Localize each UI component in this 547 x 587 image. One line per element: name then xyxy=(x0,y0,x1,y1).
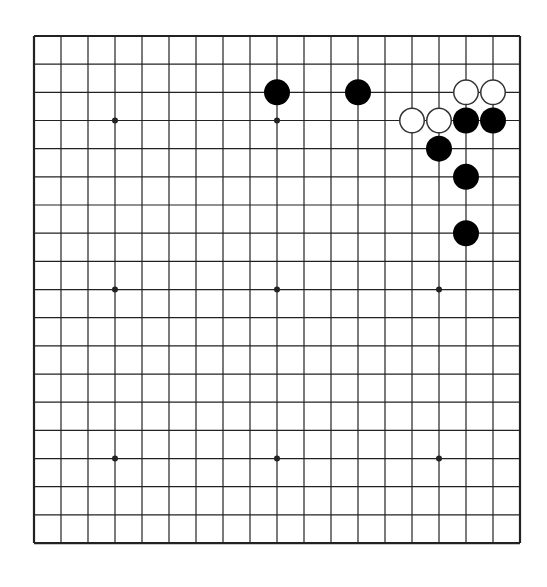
board-intersection[interactable] xyxy=(345,106,372,134)
board-intersection[interactable] xyxy=(291,501,318,529)
board-intersection[interactable] xyxy=(75,106,102,134)
board-intersection[interactable] xyxy=(453,416,480,444)
board-intersection[interactable] xyxy=(75,444,102,472)
board-intersection[interactable] xyxy=(264,501,291,529)
board-intersection[interactable] xyxy=(156,247,183,275)
board-intersection[interactable] xyxy=(21,529,48,557)
board-intersection[interactable] xyxy=(345,219,372,247)
board-intersection[interactable] xyxy=(345,247,372,275)
board-intersection[interactable] xyxy=(345,529,372,557)
board-intersection[interactable] xyxy=(21,50,48,78)
board-intersection[interactable] xyxy=(210,22,237,50)
board-intersection[interactable] xyxy=(507,444,534,472)
board-intersection[interactable] xyxy=(291,247,318,275)
board-intersection[interactable] xyxy=(399,163,426,191)
board-intersection[interactable] xyxy=(156,501,183,529)
board-intersection[interactable] xyxy=(21,135,48,163)
board-intersection[interactable] xyxy=(264,275,291,303)
board-intersection[interactable] xyxy=(426,275,453,303)
board-intersection[interactable] xyxy=(183,416,210,444)
board-intersection[interactable] xyxy=(264,332,291,360)
board-intersection[interactable] xyxy=(399,360,426,388)
board-intersection[interactable] xyxy=(318,22,345,50)
board-intersection[interactable] xyxy=(75,191,102,219)
board-intersection[interactable] xyxy=(102,388,129,416)
board-intersection[interactable] xyxy=(399,78,426,106)
board-intersection[interactable] xyxy=(48,473,75,501)
board-intersection[interactable] xyxy=(21,106,48,134)
board-intersection[interactable] xyxy=(183,191,210,219)
board-intersection[interactable] xyxy=(507,106,534,134)
board-intersection[interactable] xyxy=(237,135,264,163)
board-intersection[interactable] xyxy=(21,416,48,444)
board-intersection[interactable] xyxy=(210,191,237,219)
board-intersection[interactable] xyxy=(399,275,426,303)
board-intersection[interactable] xyxy=(372,135,399,163)
board-intersection[interactable] xyxy=(102,529,129,557)
board-intersection[interactable] xyxy=(345,275,372,303)
board-intersection[interactable] xyxy=(48,360,75,388)
go-board[interactable] xyxy=(0,0,547,587)
board-intersection[interactable] xyxy=(507,388,534,416)
board-intersection[interactable] xyxy=(156,275,183,303)
board-intersection[interactable] xyxy=(453,304,480,332)
board-intersection[interactable] xyxy=(48,191,75,219)
board-intersection[interactable] xyxy=(183,529,210,557)
board-intersection[interactable] xyxy=(129,501,156,529)
board-intersection[interactable] xyxy=(237,247,264,275)
board-intersection[interactable] xyxy=(237,163,264,191)
board-intersection[interactable] xyxy=(21,388,48,416)
board-intersection[interactable] xyxy=(480,219,507,247)
board-intersection[interactable] xyxy=(453,444,480,472)
board-intersection[interactable] xyxy=(210,50,237,78)
board-intersection[interactable] xyxy=(237,50,264,78)
board-intersection[interactable] xyxy=(372,22,399,50)
board-intersection[interactable] xyxy=(210,501,237,529)
board-intersection[interactable] xyxy=(480,163,507,191)
board-intersection[interactable] xyxy=(318,304,345,332)
board-intersection[interactable] xyxy=(48,501,75,529)
board-intersection[interactable] xyxy=(399,529,426,557)
board-intersection[interactable] xyxy=(156,416,183,444)
board-intersection[interactable] xyxy=(318,275,345,303)
board-intersection[interactable] xyxy=(21,78,48,106)
board-intersection[interactable] xyxy=(183,163,210,191)
board-intersection[interactable] xyxy=(264,163,291,191)
board-intersection[interactable] xyxy=(129,106,156,134)
board-intersection[interactable] xyxy=(426,332,453,360)
board-intersection[interactable] xyxy=(21,163,48,191)
board-intersection[interactable] xyxy=(480,360,507,388)
board-intersection[interactable] xyxy=(210,163,237,191)
board-intersection[interactable] xyxy=(210,135,237,163)
board-intersection[interactable] xyxy=(21,501,48,529)
board-intersection[interactable] xyxy=(480,332,507,360)
board-intersection[interactable] xyxy=(183,501,210,529)
board-intersection[interactable] xyxy=(75,135,102,163)
board-intersection[interactable] xyxy=(345,163,372,191)
board-intersection[interactable] xyxy=(102,275,129,303)
board-intersection[interactable] xyxy=(291,275,318,303)
board-intersection[interactable] xyxy=(237,332,264,360)
board-intersection[interactable] xyxy=(507,50,534,78)
board-intersection[interactable] xyxy=(318,332,345,360)
board-intersection[interactable] xyxy=(75,163,102,191)
board-intersection[interactable] xyxy=(426,529,453,557)
board-intersection[interactable] xyxy=(426,360,453,388)
board-intersection[interactable] xyxy=(372,473,399,501)
board-intersection[interactable] xyxy=(48,304,75,332)
board-intersection[interactable] xyxy=(156,304,183,332)
board-intersection[interactable] xyxy=(129,444,156,472)
board-intersection[interactable] xyxy=(291,444,318,472)
board-intersection[interactable] xyxy=(129,416,156,444)
board-intersection[interactable] xyxy=(426,22,453,50)
board-intersection[interactable] xyxy=(210,304,237,332)
board-intersection[interactable] xyxy=(48,416,75,444)
board-intersection[interactable] xyxy=(129,247,156,275)
board-intersection[interactable] xyxy=(48,163,75,191)
board-intersection[interactable] xyxy=(399,50,426,78)
board-intersection[interactable] xyxy=(372,501,399,529)
board-intersection[interactable] xyxy=(75,332,102,360)
board-intersection[interactable] xyxy=(21,219,48,247)
board-intersection[interactable] xyxy=(21,191,48,219)
board-intersection[interactable] xyxy=(318,501,345,529)
